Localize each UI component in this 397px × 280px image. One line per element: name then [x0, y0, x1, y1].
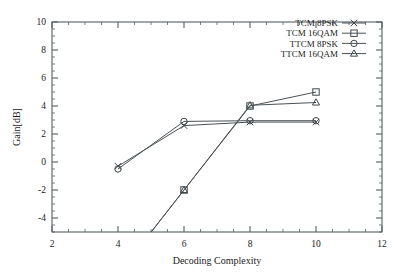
legend-label: TTCM 8PSK: [290, 39, 339, 49]
chart-figure: 24681012 -4-20246810 Decoding Complexity…: [0, 0, 397, 280]
legend-item-tcm-8psk: TCM 8PSK: [295, 18, 366, 28]
y-tick-label: 4: [41, 101, 46, 111]
y-tick-label: 10: [37, 17, 47, 27]
series-tcm-8psk: [115, 119, 319, 169]
y-tick-label: 0: [41, 157, 46, 167]
y-axis-title: Gain[dB]: [11, 108, 22, 146]
legend-label: TCM 16QAM: [286, 28, 338, 38]
x-axis-title: Decoding Complexity: [173, 255, 262, 266]
y-tick-label: 8: [41, 45, 46, 55]
y-axis-minor-ticks: [52, 29, 382, 232]
legend-label: TCM 8PSK: [295, 18, 338, 28]
x-tick-label: 4: [116, 239, 121, 249]
y-tick-label: 2: [41, 129, 46, 139]
y-axis-tick-labels: -4-20246810: [37, 17, 47, 223]
x-axis-tick-labels: 24681012: [50, 239, 387, 249]
legend-label: TTCM 16QAM: [281, 49, 338, 59]
data-series-group: [115, 89, 320, 246]
triangle-marker: [312, 99, 319, 105]
series-tcm-16qam: [140, 89, 319, 246]
y-tick-label: -2: [38, 185, 46, 195]
x-tick-label: 12: [377, 239, 387, 249]
x-tick-label: 10: [311, 239, 321, 249]
x-tick-label: 2: [50, 239, 55, 249]
y-tick-label: 6: [41, 73, 46, 83]
triangle-marker: [350, 50, 357, 56]
legend-item-ttcm-16qam: TTCM 16QAM: [281, 49, 366, 59]
y-tick-label: -4: [38, 213, 46, 223]
x-tick-label: 6: [182, 239, 187, 249]
series-ttcm-8psk: [115, 118, 319, 173]
legend-item-ttcm-8psk: TTCM 8PSK: [290, 39, 366, 49]
x-tick-label: 8: [248, 239, 253, 249]
legend-item-tcm-16qam: TCM 16QAM: [286, 28, 366, 38]
gain-vs-decoding-complexity-chart: 24681012 -4-20246810 Decoding Complexity…: [0, 0, 397, 280]
chart-legend: TCM 8PSKTCM 16QAMTTCM 8PSKTTCM 16QAM: [281, 18, 366, 59]
